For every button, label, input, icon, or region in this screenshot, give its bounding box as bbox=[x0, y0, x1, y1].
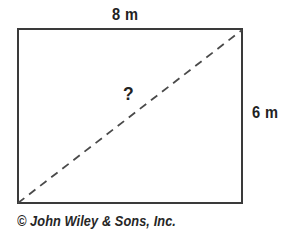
copyright-credit: © John Wiley & Sons, Inc. bbox=[17, 212, 176, 232]
diagonal-unknown-label: ? bbox=[123, 84, 134, 103]
figure-container: 8 m 6 m ? © John Wiley & Sons, Inc. bbox=[0, 0, 300, 240]
right-side-label: 6 m bbox=[252, 104, 278, 121]
top-side-label: 8 m bbox=[112, 6, 138, 23]
